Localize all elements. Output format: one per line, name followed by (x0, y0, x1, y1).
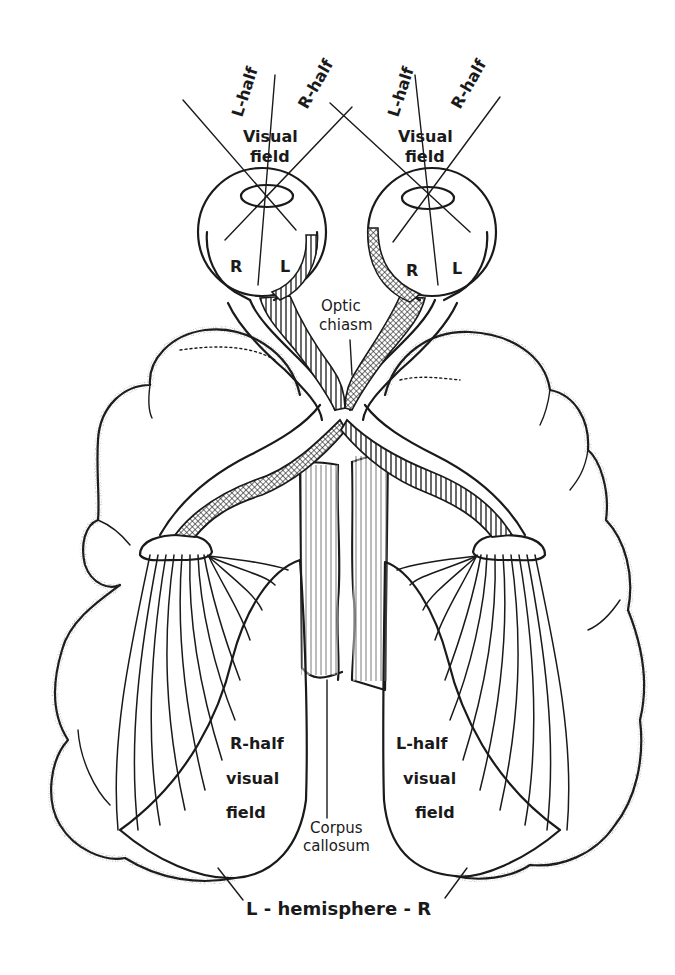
optic-chiasm-label-2: chiasm (319, 316, 373, 334)
left-retina-temporal-half (272, 235, 317, 300)
left-optic-radiation (116, 555, 288, 830)
corpus-callosum (300, 452, 388, 818)
left-eye-retina-r: R (230, 257, 242, 276)
optic-chiasm-label-1: Optic (321, 297, 361, 315)
right-visual-cortex (383, 535, 569, 877)
hemisphere-label: L - hemisphere - R (246, 898, 431, 919)
left-eye (183, 75, 352, 300)
left-sulcus-2 (98, 520, 130, 545)
right-field-label-1: L-half (396, 734, 449, 753)
visual-pathway-diagram: L-half R-half Visual field R L L-half R-… (0, 0, 675, 975)
left-field-label-2: visual (226, 769, 279, 788)
optic-chiasm-pointer (350, 340, 352, 375)
corpus-callosum-label-1: Corpus (310, 819, 363, 837)
right-hemisphere (385, 332, 644, 879)
right-eye-visual-label: Visual (398, 127, 453, 146)
left-eye-field-label: field (250, 147, 290, 166)
left-hemisphere (51, 329, 300, 881)
right-eye-field-label: field (405, 147, 445, 166)
diagram-canvas: L-half R-half Visual field R L L-half R-… (0, 0, 675, 975)
right-sulcus-1 (540, 390, 550, 425)
right-eye-retina-r: R (406, 261, 418, 280)
left-hemisphere-outline (51, 329, 300, 881)
right-retina-inner-r (444, 232, 487, 300)
left-retina-inner-l (207, 232, 250, 300)
left-sulcus-3 (180, 347, 275, 360)
right-field-label-2: visual (403, 769, 456, 788)
right-eye-l-half-label: L-half (384, 63, 418, 119)
left-hemisphere-pointer (218, 868, 243, 900)
left-eye-retina-l: L (280, 257, 290, 276)
right-eye-retina-l: L (452, 259, 462, 278)
left-eye-l-half-label: L-half (228, 63, 262, 119)
left-field-label-1: R-half (230, 734, 285, 753)
right-field-label-3: field (415, 803, 455, 822)
corpus-callosum-label-2: callosum (303, 837, 370, 855)
left-lateral-geniculate (140, 535, 212, 560)
right-eye-r-half-label: R-half (447, 55, 491, 112)
left-eye-visual-label: Visual (243, 127, 298, 146)
right-hemisphere-outline (385, 332, 644, 879)
right-sulcus-4 (588, 600, 620, 630)
left-sulcus-1 (149, 385, 152, 418)
right-sulcus-3 (400, 377, 460, 380)
right-lateral-geniculate (473, 535, 545, 560)
left-sulcus-4 (78, 730, 110, 805)
right-hemisphere-pointer (445, 868, 467, 898)
left-visual-cortex (116, 535, 307, 878)
right-sulcus-2 (570, 450, 588, 490)
left-field-label-3: field (226, 803, 266, 822)
